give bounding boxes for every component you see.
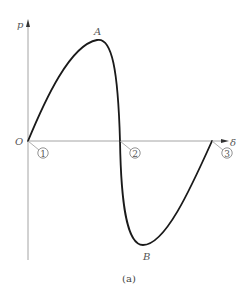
marker-label-3: 3 [224,149,230,159]
leader-line-2 [120,141,131,150]
p-delta-curve [28,40,212,245]
figure-caption: (a) [122,273,136,284]
trough-label-b: B [142,251,150,262]
x-axis-arrow-icon [221,139,229,143]
x-axis-label: δ [230,137,236,148]
leader-line-1 [28,141,39,150]
y-axis-label: p [17,19,24,30]
marker-label-2: 2 [132,149,138,159]
p-delta-diagram: p δ O A B 1 2 3 (a) [0,0,249,298]
origin-label: O [15,136,23,147]
peak-label-a: A [93,26,101,37]
y-axis-arrow-icon [26,19,30,27]
marker-label-1: 1 [40,149,46,159]
